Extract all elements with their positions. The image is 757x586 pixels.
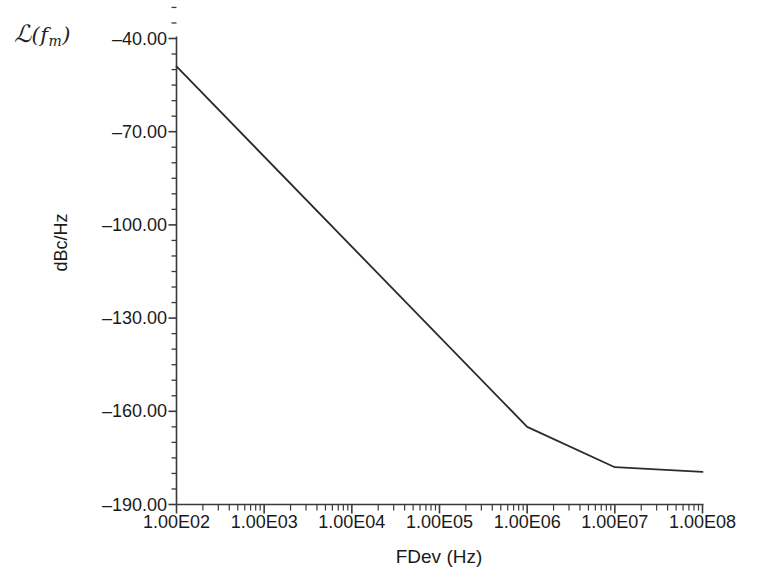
- axes-lines: [177, 37, 704, 505]
- y-axis-tick-label: –100.00: [59, 216, 167, 234]
- x-axis-tick-label: 1.00E08: [648, 512, 757, 533]
- y-axis-tick-label: –40.00: [59, 30, 167, 48]
- y-axis-ticks: [169, 7, 177, 504]
- x-axis-tick-labels: 1.00E021.00E031.00E041.00E051.00E061.00E…: [0, 512, 757, 540]
- y-axis-tick-labels: –40.00–70.00–100.00–130.00–160.00–190.00: [55, 0, 167, 586]
- x-axis-label: FDev (Hz): [176, 546, 702, 568]
- y-axis-tick-label: –190.00: [59, 496, 167, 514]
- chart-title-open-paren: (: [32, 23, 41, 47]
- y-axis-tick-label: –130.00: [59, 309, 167, 327]
- y-axis-tick-label: –160.00: [59, 402, 167, 420]
- data-series-lines: [177, 66, 703, 471]
- chart-title-symbol: ℒ: [14, 20, 32, 48]
- y-axis-tick-label: –70.00: [59, 123, 167, 141]
- phase-noise-chart-figure: ℒ(fm) dBc/Hz FDev (Hz) –40.00–70.00–100.…: [0, 0, 757, 586]
